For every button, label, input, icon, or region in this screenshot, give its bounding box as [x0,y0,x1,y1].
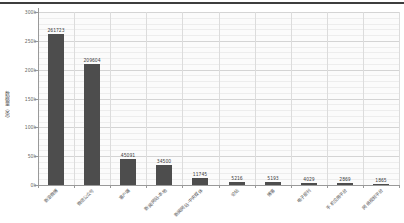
y-tick-label: 0k [6,183,36,188]
y-axis-title: 数据量（条） [4,90,11,118]
bar-value-label: 11745 [185,172,215,177]
bar [301,183,317,185]
vertical-gridline [74,12,75,185]
page: 数据量（条） 0k50k100k150k200k250k300k261723新浪… [0,0,404,223]
bar [337,183,353,185]
x-tick-label: 新闻网站-中央媒体 [174,188,204,218]
vertical-gridline [110,12,111,185]
bar-value-label: 2869 [330,177,360,182]
bar-value-label: 209604 [77,58,107,63]
y-tick-label: 100k [6,125,36,130]
y-tick-label: 200k [6,67,36,72]
x-axis-line [38,185,400,186]
y-axis-line [38,8,39,185]
bar-value-label: 34500 [149,159,179,164]
bar-chart-canvas[interactable]: 数据量（条） 0k50k100k150k200k250k300k261723新浪… [0,4,404,223]
bar [156,165,172,185]
y-tick-label: 50k [6,154,36,159]
vertical-gridline [219,12,220,185]
bar-value-label: 45091 [113,153,143,158]
x-tick-label: 博客 [266,188,276,198]
bar-value-label: 4029 [294,177,324,182]
x-tick-label: 客户端 [119,188,132,201]
x-tick-label: 论坛 [230,188,240,198]
bar [84,64,100,185]
bar [120,159,136,185]
bar [48,34,64,185]
vertical-gridline [182,12,183,185]
bar [265,182,281,185]
y-tick-label: 150k [6,96,36,101]
x-tick-label: 新浪微博 [43,188,59,204]
vertical-gridline [291,12,292,185]
vertical-gridline [327,12,328,185]
x-tick-label: 微信公众号 [76,188,95,207]
bar [192,178,208,185]
bar-value-label: 5216 [222,176,252,181]
bar-value-label: 5193 [258,176,288,181]
bar-value-label: 261723 [41,28,71,33]
bar [229,182,245,185]
vertical-gridline [363,12,364,185]
x-tick-label: 手机应用平台 [326,188,348,210]
y-tick-label: 250k [6,38,36,43]
bar-value-label: 1865 [366,178,396,183]
vertical-gridline [399,12,400,185]
x-tick-label: 电子报刊 [296,188,312,204]
vertical-gridline [255,12,256,185]
x-tick-label: 网络视频平台 [362,188,384,210]
x-tick-label: 新闻网站-本地 [144,188,167,211]
bar [373,184,389,185]
y-tick-label: 300k [6,10,36,15]
vertical-gridline [146,12,147,185]
